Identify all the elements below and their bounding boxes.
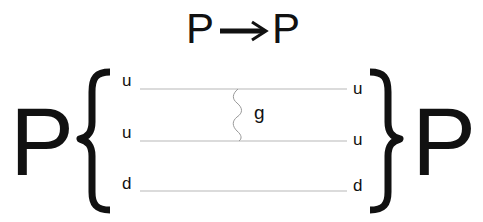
left-brace-icon [80, 72, 110, 210]
quark-label-right-1: u [353, 80, 362, 97]
title-arrow-icon [220, 22, 266, 40]
gluon-label: g [254, 103, 265, 122]
right-brace-icon [370, 72, 400, 210]
title-final-state: P [272, 8, 300, 50]
quark-label-left-2: u [122, 124, 131, 141]
quark-label-left-1: u [122, 72, 131, 89]
title-initial-state: P [186, 8, 214, 50]
gluon-wave-icon [233, 89, 241, 141]
outgoing-proton-label: P [412, 94, 476, 190]
quark-label-right-3: d [353, 177, 362, 194]
quark-label-right-2: u [353, 131, 362, 148]
incoming-proton-label: P [10, 94, 74, 190]
quark-label-left-3: d [122, 175, 131, 192]
